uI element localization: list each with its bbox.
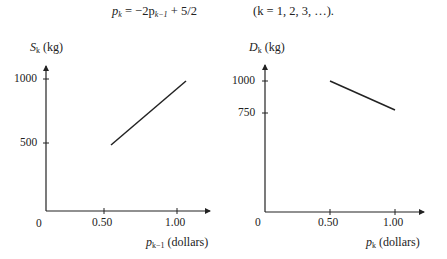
demand-xtick-label-050: 0.50 — [318, 216, 338, 228]
demand-ytick-label-1000: 1000 — [232, 74, 255, 86]
supply-xtick-label-100: 1.00 — [165, 216, 185, 228]
supply-y-axis-label: Sk (kg) — [30, 40, 63, 55]
charts-canvas — [0, 0, 447, 259]
demand-x-axis-label: pk (dollars) — [366, 235, 420, 250]
supply-x-axis-label: pk−1 (dollars) — [146, 235, 208, 250]
demand-origin-label: 0 — [255, 216, 261, 228]
supply-line — [111, 81, 186, 145]
supply-chart — [43, 66, 210, 214]
demand-chart — [262, 65, 424, 215]
supply-origin-label: 0 — [36, 217, 42, 229]
supply-ytick-label-500: 500 — [20, 136, 37, 148]
demand-xtick-label-100: 1.00 — [383, 216, 403, 228]
demand-y-axis-label: Dk (kg) — [249, 40, 285, 55]
supply-xtick-label-050: 0.50 — [92, 216, 112, 228]
supply-ytick-label-1000: 1000 — [14, 72, 37, 84]
demand-ytick-label-750: 750 — [238, 106, 255, 118]
demand-line — [330, 81, 395, 110]
